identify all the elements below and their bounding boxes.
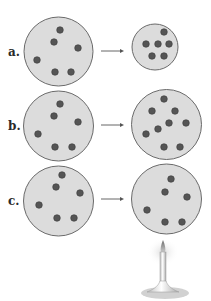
row-a: a.: [8, 17, 178, 86]
particle-diagram: a.b.c.: [0, 0, 211, 301]
particle: [166, 120, 173, 127]
particle: [172, 108, 179, 115]
particle: [36, 202, 43, 209]
particle: [155, 126, 162, 133]
particle: [143, 131, 150, 138]
particle: [179, 219, 186, 226]
final-state: [132, 24, 178, 70]
particle: [57, 101, 64, 108]
initial-state: [24, 91, 94, 161]
initial-state: [24, 166, 94, 236]
particle: [183, 120, 190, 127]
particle: [161, 29, 168, 36]
particle: [149, 53, 156, 60]
row-label: a.: [8, 45, 20, 59]
row-label: c.: [8, 194, 19, 208]
particle: [161, 144, 168, 151]
final-state: [132, 90, 202, 160]
particle: [77, 190, 84, 197]
particle: [52, 69, 59, 76]
particle: [162, 219, 169, 226]
particle: [35, 131, 42, 138]
particle: [51, 113, 58, 120]
particle: [162, 189, 169, 196]
particle: [143, 41, 150, 48]
initial-state: [24, 17, 93, 86]
particle: [166, 41, 173, 48]
particle: [155, 41, 162, 48]
container-circle: [132, 24, 178, 70]
particle: [184, 194, 191, 201]
row-b: b.: [8, 90, 202, 162]
particle: [149, 108, 156, 115]
particle: [161, 96, 168, 103]
particle: [68, 69, 75, 76]
row-c: c.: [8, 164, 202, 236]
container-circle: [24, 166, 94, 236]
particle: [71, 215, 78, 222]
particle: [161, 53, 168, 60]
bunsen-burner-icon: [141, 238, 189, 299]
arrowhead-icon: [120, 123, 124, 127]
particle: [59, 172, 66, 179]
particle: [51, 39, 58, 46]
particle: [168, 176, 175, 183]
particle: [52, 144, 59, 151]
row-label: b.: [8, 119, 21, 133]
particle: [75, 119, 82, 126]
particle: [69, 144, 76, 151]
arrowhead-icon: [120, 49, 124, 53]
particle: [53, 184, 60, 191]
particle: [75, 45, 82, 52]
final-state: [132, 164, 202, 234]
particle: [54, 215, 61, 222]
particle: [34, 57, 41, 64]
particle: [144, 207, 151, 214]
arrowhead-icon: [120, 197, 124, 201]
particle: [57, 27, 64, 34]
particle: [177, 144, 184, 151]
